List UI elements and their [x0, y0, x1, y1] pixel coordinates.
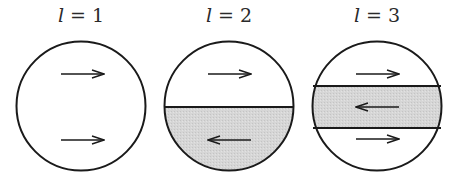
panel-l3 — [308, 42, 448, 171]
panel-l1 — [17, 42, 146, 171]
shaded-region — [160, 107, 300, 177]
mode-diagram: l = 1 l = 2 l = 3 — [0, 0, 457, 182]
diagram-canvas — [0, 0, 457, 182]
cross-section-circle — [17, 42, 146, 171]
panel-l2 — [160, 42, 300, 178]
